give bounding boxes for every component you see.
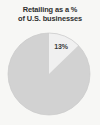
pie-chart-area: 13% — [0, 0, 100, 125]
pie-chart-figure: Retailing as a % of U.S. businesses 13% — [0, 0, 100, 125]
pie-chart-svg — [0, 0, 100, 125]
